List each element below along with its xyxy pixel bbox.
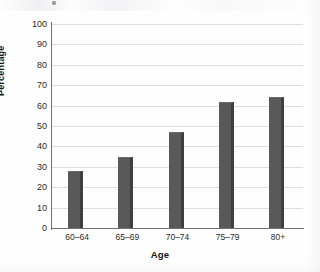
scan-artifact-dot [52, 1, 56, 5]
gridline-0 [52, 228, 303, 229]
y-tick-label: 40 [3, 142, 47, 151]
y-tick-label: 50 [3, 122, 47, 131]
gridline-50 [52, 126, 303, 127]
x-tick-label: 60–64 [49, 233, 105, 242]
y-tick-label: 60 [3, 101, 47, 110]
gridline-70 [52, 85, 303, 86]
y-tick-label: 90 [3, 40, 47, 49]
bar [169, 132, 184, 228]
y-tick-label: 100 [3, 20, 47, 29]
x-tick-label: 75–79 [200, 233, 256, 242]
x-tick-label: 80+ [250, 233, 306, 242]
y-tick-label: 30 [3, 162, 47, 171]
x-tick-label: 70–74 [150, 233, 206, 242]
y-tick-label: 10 [3, 203, 47, 212]
y-tick-label: 0 [3, 224, 47, 233]
y-tick-label: 20 [3, 183, 47, 192]
gridline-100 [52, 24, 303, 25]
bar-chart-figure: Percentage 0102030405060708090100 60–646… [0, 0, 320, 272]
scan-artifact-right [306, 0, 320, 272]
bar [68, 171, 83, 228]
y-tick-label: 70 [3, 81, 47, 90]
y-tick-label: 80 [3, 60, 47, 69]
bar [219, 102, 234, 228]
x-tick-label: 65–69 [99, 233, 155, 242]
scan-artifact-top [0, 0, 320, 11]
bar [269, 97, 284, 228]
scan-artifact-bottom [0, 262, 320, 272]
bar [118, 157, 133, 228]
gridline-80 [52, 65, 303, 66]
plot-area: 0102030405060708090100 [52, 24, 303, 228]
gridline-60 [52, 106, 303, 107]
x-axis-title: Age [0, 249, 320, 260]
gridline-90 [52, 44, 303, 45]
